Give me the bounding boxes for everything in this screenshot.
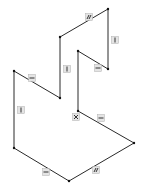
parallel-icon[interactable]	[86, 14, 93, 21]
horizontal-icon[interactable]	[98, 115, 105, 122]
coincident-icon[interactable]	[73, 114, 80, 121]
sketch-vertex-F[interactable]	[68, 180, 70, 182]
sketch-edge-IJ[interactable]	[78, 51, 108, 69]
sketch-vertex-J[interactable]	[107, 68, 109, 70]
sketch-vertex-G[interactable]	[133, 142, 135, 144]
sketch-vertex-C[interactable]	[59, 97, 61, 99]
constraint-glyphs	[18, 14, 119, 176]
sketch-edge-FG[interactable]	[69, 143, 134, 181]
sketch-vertex-B[interactable]	[59, 36, 61, 38]
sketch-vertex-H[interactable]	[77, 110, 79, 112]
horizontal-icon[interactable]	[95, 65, 102, 72]
sketch-edge-EF[interactable]	[14, 148, 69, 181]
sketch-canvas[interactable]	[0, 0, 148, 195]
sketch-vertex-D[interactable]	[13, 70, 15, 72]
vertical-icon[interactable]	[64, 66, 71, 73]
horizontal-icon[interactable]	[43, 169, 50, 176]
vertical-icon[interactable]	[18, 107, 25, 114]
sketch-edges	[14, 9, 134, 181]
sketch-vertex-A[interactable]	[107, 8, 109, 10]
sketch-vertices	[13, 8, 135, 182]
horizontal-icon[interactable]	[29, 75, 36, 82]
vertical-icon[interactable]	[112, 37, 119, 44]
sketch-edge-CD[interactable]	[14, 71, 60, 98]
sketch-edge-GH[interactable]	[78, 111, 134, 143]
sketch-vertex-E[interactable]	[13, 147, 15, 149]
parallel-icon[interactable]	[93, 167, 100, 174]
sketch-edge-AB[interactable]	[60, 9, 108, 37]
sketch-vertex-I[interactable]	[77, 50, 79, 52]
